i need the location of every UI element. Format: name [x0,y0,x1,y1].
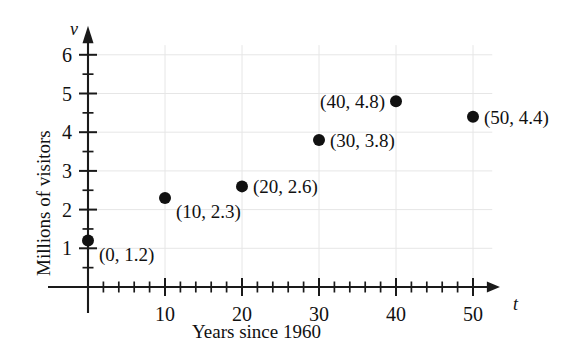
x-axis-variable-label: t [513,295,518,313]
y-axis-title-wrapper: Millions of visitors [0,0,44,300]
point-coordinate-label: (40, 4.8) [320,92,385,111]
y-axis-variable-label: v [70,20,78,38]
x-tick-label: 10 [145,304,185,324]
x-tick-label: 50 [453,304,493,324]
y-tick-label: 1 [40,238,72,258]
point-coordinate-label: (50, 4.4) [484,108,549,127]
x-tick-label: 20 [222,304,262,324]
point-coordinate-label: (0, 1.2) [99,245,154,264]
x-tick-label: 40 [376,304,416,324]
x-tick-label: 30 [299,304,339,324]
axis-lines [48,26,500,313]
point-coordinate-label: (10, 2.3) [176,202,241,221]
scatter-plot-figure: Millions of visitors Years since 1960 v … [0,0,566,356]
y-tick-label: 4 [40,122,72,142]
point-coordinate-label: (30, 3.8) [330,131,395,150]
x-axis-title: Years since 1960 [192,322,321,341]
point-coordinate-label: (20, 2.6) [253,177,318,196]
y-tick-label: 6 [40,45,72,65]
y-tick-label: 2 [40,200,72,220]
y-tick-label: 5 [40,84,72,104]
y-tick-label: 3 [40,161,72,181]
